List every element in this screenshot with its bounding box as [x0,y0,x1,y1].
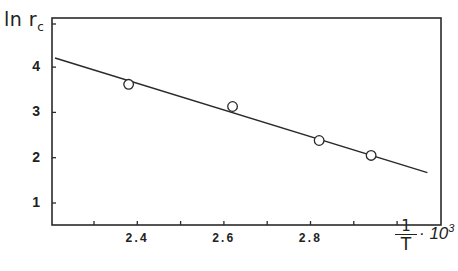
x-tick-label: 2.4 [125,232,147,246]
y-tick-label: 2 [24,149,40,165]
data-point [124,80,134,90]
x-label-multiplier-base: · 10 [419,224,448,243]
x-tick-label: 2.6 [212,232,234,246]
y-axis-label-subscript: c [37,20,44,34]
x-axis-fraction: 1 T [395,218,417,253]
plot-border [52,18,441,225]
x-label-exponent: 3 [448,222,454,234]
chart-canvas [0,0,458,271]
data-point [314,136,324,146]
y-axis-label: ln rc [4,8,44,34]
y-tick-label: 4 [24,58,40,74]
y-axis-label-main: ln r [4,8,37,30]
x-tick-label: 2.8 [299,232,321,246]
data-point [366,151,376,161]
plot-frame [52,18,441,225]
data-point [228,102,238,112]
x-label-multiplier: · 103 [419,222,454,244]
y-tick-label: 1 [24,194,40,210]
x-label-numerator: 1 [395,218,417,234]
y-tick-label: 3 [24,103,40,119]
x-label-denominator: T [395,235,417,253]
